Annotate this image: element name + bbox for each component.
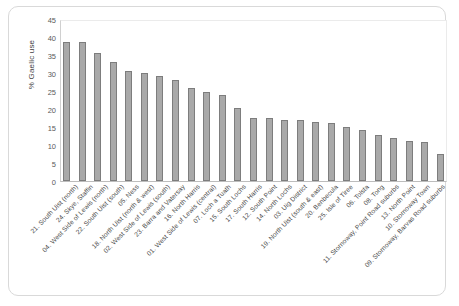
bar <box>328 123 335 181</box>
x-axis-tick-labels: 21. South Uist (north)24. Skye, Staffin0… <box>60 183 447 303</box>
bar <box>156 76 163 181</box>
bar <box>63 42 70 181</box>
bar <box>390 138 397 181</box>
y-tick-label: 35 <box>40 53 56 61</box>
chart-figure: % Gaelic use 45 40 35 30 25 20 15 10 5 0… <box>0 0 459 306</box>
bar-series <box>61 21 446 181</box>
y-axis-title: % Gaelic use <box>27 10 36 120</box>
y-tick-label: 45 <box>40 17 56 25</box>
bar <box>375 135 382 181</box>
chart-area: % Gaelic use 45 40 35 30 25 20 15 10 5 0… <box>0 0 459 306</box>
bar <box>297 120 304 181</box>
y-axis-tick-labels: 45 40 35 30 25 20 15 10 5 0 <box>38 0 56 306</box>
bar <box>141 73 148 181</box>
bar <box>125 71 132 181</box>
bar <box>250 118 257 181</box>
y-tick-label: 25 <box>40 89 56 97</box>
bar <box>188 88 195 181</box>
bar <box>312 122 319 181</box>
y-tick-label: 40 <box>40 35 56 43</box>
bar <box>219 95 226 181</box>
bar <box>406 141 413 181</box>
bar <box>110 62 117 181</box>
bar <box>234 108 241 181</box>
y-tick-label: 0 <box>40 179 56 187</box>
bar <box>359 130 366 181</box>
bar <box>281 120 288 182</box>
y-tick-label: 5 <box>40 161 56 169</box>
bar <box>421 142 428 181</box>
bar <box>203 92 210 181</box>
bar <box>94 53 101 181</box>
y-tick-label: 30 <box>40 71 56 79</box>
bar <box>266 118 273 181</box>
bar <box>343 127 350 181</box>
y-tick-label: 20 <box>40 107 56 115</box>
bar <box>437 154 444 181</box>
y-tick-label: 10 <box>40 143 56 151</box>
bar <box>79 42 86 181</box>
y-tick-label: 15 <box>40 125 56 133</box>
bar <box>172 80 179 181</box>
plot-area <box>60 20 447 182</box>
